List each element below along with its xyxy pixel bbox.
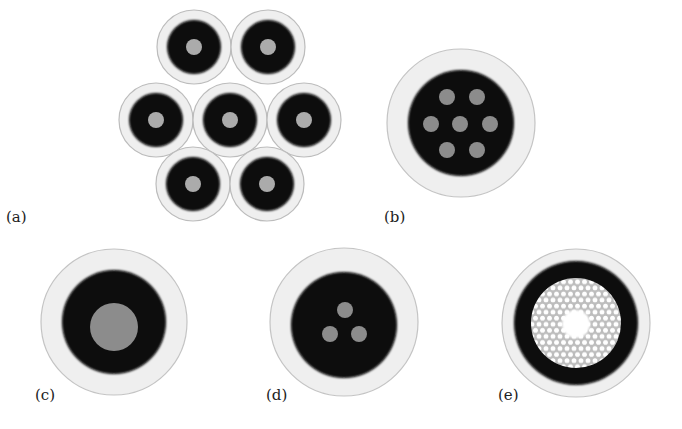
panel-label-a: (a)	[6, 208, 27, 226]
fiber-7	[230, 147, 304, 221]
fiber-1	[157, 10, 231, 84]
panel-a-fiber-bundle: (a)	[6, 10, 341, 226]
panel-label-c: (c)	[35, 386, 55, 404]
fiber-3	[119, 83, 193, 157]
fiber-6	[156, 147, 230, 221]
fiber-cross-section-figure: (a) (b) (c) (d) (e)	[0, 0, 682, 429]
hollow-core	[562, 310, 590, 338]
panel-label-d: (d)	[266, 386, 287, 404]
panel-e-hollow-core-pcf: (e)	[498, 249, 650, 404]
panel-b-multicore-fiber: (b)	[384, 49, 535, 226]
panel-d-few-core-fiber: (d)	[266, 248, 418, 404]
fiber-4	[193, 83, 267, 157]
panel-label-b: (b)	[384, 208, 405, 226]
panel-c-single-core-fiber: (c)	[35, 249, 187, 404]
panel-label-e: (e)	[498, 386, 519, 404]
fiber-5	[267, 83, 341, 157]
fiber-2	[231, 10, 305, 84]
